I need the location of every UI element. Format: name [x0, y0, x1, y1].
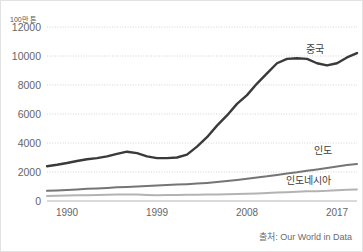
y-tick-label: 12000 [12, 21, 41, 33]
x-tick-label: 2008 [236, 207, 259, 218]
chart-card: 100만 톤 020004000600080001000012000 19901… [0, 0, 363, 252]
x-axis-tick-labels: 1990199920082017 [56, 207, 349, 218]
y-axis-tick-labels: 020004000600080001000012000 [12, 21, 41, 207]
y-tick-label: 4000 [18, 137, 42, 149]
series-label: 인도네시아 [286, 175, 331, 186]
x-tick-label: 1990 [56, 207, 79, 218]
series-line [47, 53, 357, 166]
y-tick-label: 6000 [18, 108, 42, 120]
y-tick-label: 2000 [18, 166, 42, 178]
series-label: 인도 [314, 145, 332, 156]
y-tick-label: 0 [35, 195, 41, 207]
source-note: 출처: Our World in Data [259, 230, 352, 243]
series-line [47, 189, 357, 196]
y-tick-label: 8000 [18, 79, 42, 91]
x-tick-label: 1999 [146, 207, 169, 218]
series-label: 중국 [306, 44, 324, 55]
x-tick-label: 2017 [326, 207, 349, 218]
line-chart-plot: 020004000600080001000012000 199019992008… [1, 1, 363, 252]
y-tick-label: 10000 [12, 50, 41, 62]
